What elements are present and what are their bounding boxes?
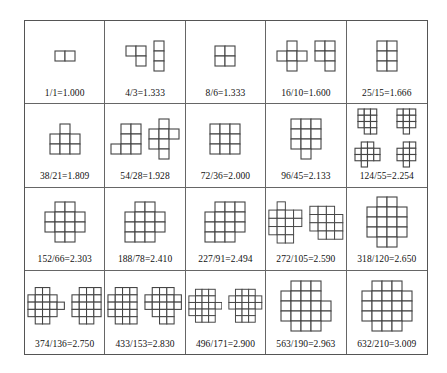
polyomino-shape — [396, 141, 417, 168]
polyomino-unit-square — [45, 212, 55, 222]
ratio-caption: 227/91=2.494 — [186, 255, 265, 270]
polyomino-unit-square — [249, 316, 256, 323]
polyomino-unit-square — [287, 41, 297, 51]
polyomino-unit-square — [409, 154, 415, 160]
polyomino-shape — [314, 40, 336, 72]
polyomino-cell: 188/78=2.410 — [105, 188, 185, 271]
polyomino-unit-square — [65, 202, 75, 212]
polyomino-unit-square — [75, 212, 85, 222]
polyomino-shape-group — [266, 104, 345, 172]
polyomino-shape-group — [266, 188, 345, 256]
polyomino-unit-square — [387, 61, 397, 71]
polyomino-unit-square — [367, 154, 373, 160]
polyomino-unit-square — [321, 301, 331, 311]
polyomino-unit-square — [230, 134, 240, 144]
polyomino-unit-square — [43, 317, 50, 324]
polyomino-unit-square — [409, 116, 415, 122]
polyomino-unit-square — [310, 214, 318, 222]
polyomino-unit-square — [60, 134, 70, 144]
polyomino-unit-square — [160, 295, 167, 302]
polyomino-unit-square — [403, 142, 409, 148]
polyomino-cell: 54/28=1.928 — [105, 104, 185, 187]
polyomino-unit-square — [87, 310, 94, 317]
polyomino-unit-square — [277, 218, 285, 226]
polyomino-shape-group — [25, 188, 104, 256]
polyomino-unit-square — [291, 301, 301, 311]
polyomino-unit-square — [55, 212, 65, 222]
polyomino-unit-square — [301, 129, 311, 139]
polyomino-unit-square — [321, 311, 331, 321]
polyomino-unit-square — [43, 310, 50, 317]
polyomino-unit-square — [154, 61, 164, 71]
polyomino-unit-square — [325, 61, 335, 71]
polyomino-unit-square — [94, 302, 101, 309]
polyomino-unit-square — [372, 281, 382, 291]
polyomino-unit-square — [55, 222, 65, 232]
polyomino-unit-square — [311, 119, 321, 129]
polyomino-unit-square — [43, 288, 50, 295]
polyomino-unit-square — [364, 128, 370, 134]
polyomino-shape — [396, 108, 417, 135]
ratio-caption: 496/171=2.900 — [186, 340, 265, 355]
polyomino-unit-square — [28, 295, 35, 302]
polyomino-unit-square — [208, 316, 215, 323]
polyomino-unit-square — [215, 232, 225, 242]
polyomino-unit-square — [87, 317, 94, 324]
polyomino-unit-square — [387, 227, 397, 237]
polyomino-unit-square — [358, 122, 364, 128]
polyomino-shape — [49, 123, 81, 155]
polyomino-unit-square — [87, 288, 94, 295]
polyomino-unit-square — [362, 291, 372, 301]
polyomino-unit-square — [215, 303, 222, 310]
polyomino-unit-square — [65, 212, 75, 222]
polyomino-shape-group — [347, 21, 427, 89]
polyomino-cell: 1/1=1.000 — [25, 21, 105, 104]
polyomino-unit-square — [167, 310, 174, 317]
polyomino-unit-square — [371, 122, 377, 128]
polyomino-unit-square — [249, 290, 256, 297]
polyomino-unit-square — [123, 295, 130, 302]
polyomino-shape-group — [105, 21, 184, 89]
polyomino-unit-square — [301, 301, 311, 311]
polyomino-unit-square — [361, 161, 367, 167]
polyomino-unit-square — [325, 41, 335, 51]
polyomino-unit-square — [155, 212, 165, 222]
polyomino-unit-square — [355, 154, 361, 160]
polyomino-unit-square — [123, 288, 130, 295]
polyomino-unit-square — [235, 222, 245, 232]
polyomino-unit-square — [130, 317, 137, 324]
polyomino-unit-square — [286, 210, 294, 218]
polyomino-unit-square — [249, 296, 256, 303]
polyomino-unit-square — [229, 303, 236, 310]
polyomino-cell: 25/15=1.666 — [347, 21, 427, 104]
polyomino-unit-square — [372, 291, 382, 301]
polyomino-cell: 563/190=2.963 — [266, 271, 346, 354]
polyomino-unit-square — [135, 212, 145, 222]
polyomino-unit-square — [311, 281, 321, 291]
polyomino-unit-square — [403, 161, 409, 167]
polyomino-unit-square — [311, 311, 321, 321]
ratio-caption: 16/10=1.600 — [266, 89, 345, 104]
polyomino-unit-square — [372, 301, 382, 311]
polyomino-unit-square — [80, 302, 87, 309]
polyomino-unit-square — [116, 295, 123, 302]
polyomino-unit-square — [281, 301, 291, 311]
polyomino-unit-square — [153, 288, 160, 295]
polyomino-unit-square — [159, 149, 169, 159]
polyomino-unit-square — [392, 291, 402, 301]
polyomino-unit-square — [220, 144, 230, 154]
polyomino-unit-square — [409, 109, 415, 115]
polyomino-unit-square — [243, 290, 250, 297]
polyomino-unit-square — [301, 139, 311, 149]
polyomino-shape — [354, 141, 381, 168]
polyomino-unit-square — [402, 291, 412, 301]
polyomino-shape-group — [347, 271, 427, 340]
polyomino-unit-square — [397, 227, 407, 237]
ratio-caption: 38/21=1.809 — [25, 172, 104, 187]
polyomino-cell: 124/55=2.254 — [347, 104, 427, 187]
polyomino-unit-square — [75, 222, 85, 232]
polyomino-unit-square — [294, 218, 302, 226]
polyomino-unit-square — [35, 295, 42, 302]
polyomino-unit-square — [202, 316, 209, 323]
polyomino-unit-square — [72, 310, 79, 317]
